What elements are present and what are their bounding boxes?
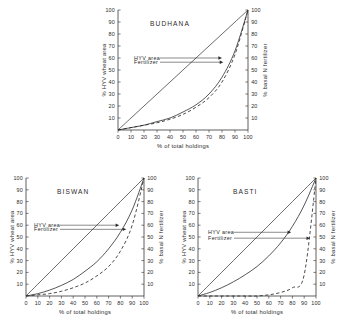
x-axis-title: % of total holdings bbox=[59, 309, 111, 315]
y-tick-label-left: 60 bbox=[189, 222, 195, 228]
y-tick-label-right: 80 bbox=[319, 199, 325, 205]
x-tick-label: 80 bbox=[219, 134, 225, 140]
y-tick-label-left: 10 bbox=[109, 115, 115, 121]
y-tick-label-left: 70 bbox=[189, 210, 195, 216]
x-tick-label: 0 bbox=[116, 134, 119, 140]
y-tick-label-left: 70 bbox=[109, 43, 115, 49]
y-tick-label-left: 80 bbox=[17, 199, 23, 205]
y-tick-label-left: 10 bbox=[189, 281, 195, 287]
y-axis-title-left: % HYV wheat area bbox=[9, 210, 15, 264]
y-tick-label-right: 100 bbox=[319, 175, 328, 181]
y-tick-label-left: 60 bbox=[109, 55, 115, 61]
x-tick-label: 40 bbox=[242, 300, 248, 306]
y-tick-label-right: 40 bbox=[147, 246, 153, 252]
chart-svg: 0102030405060708090100101020203030404050… bbox=[8, 172, 170, 318]
x-tick-label: 80 bbox=[117, 300, 123, 306]
y-tick-label-left: 30 bbox=[17, 258, 23, 264]
y-tick-label-left: 90 bbox=[189, 187, 195, 193]
x-tick-label: 20 bbox=[141, 134, 147, 140]
y-tick-label-left: 100 bbox=[106, 7, 115, 13]
y-tick-label-right: 40 bbox=[251, 79, 257, 85]
x-tick-label: 90 bbox=[301, 300, 307, 306]
x-tick-label: 10 bbox=[207, 300, 213, 306]
x-tick-label: 10 bbox=[35, 300, 41, 306]
y-tick-label-left: 20 bbox=[189, 269, 195, 275]
y-tick-label-right: 100 bbox=[147, 175, 156, 181]
y-tick-label-right: 50 bbox=[251, 67, 257, 73]
x-tick-label: 20 bbox=[46, 300, 52, 306]
y-tick-label-right: 10 bbox=[251, 115, 257, 121]
y-tick-label-left: 60 bbox=[17, 222, 23, 228]
y-tick-label-right: 60 bbox=[147, 222, 153, 228]
y-axis-title-right: % basal N fertilizer bbox=[330, 210, 336, 263]
y-tick-label-right: 40 bbox=[319, 246, 325, 252]
x-tick-label: 70 bbox=[277, 300, 283, 306]
y-tick-label-right: 30 bbox=[147, 258, 153, 264]
x-tick-label: 10 bbox=[128, 134, 134, 140]
chart-svg: 0102030405060708090100101020203030404050… bbox=[100, 4, 274, 152]
y-tick-label-right: 20 bbox=[147, 269, 153, 275]
y-axis-title-left: % HYV wheat area bbox=[181, 210, 187, 264]
y-tick-label-left: 80 bbox=[189, 199, 195, 205]
y-tick-label-right: 10 bbox=[319, 281, 325, 287]
x-tick-label: 100 bbox=[311, 300, 320, 306]
y-tick-label-left: 40 bbox=[17, 246, 23, 252]
y-tick-label-right: 80 bbox=[251, 31, 257, 37]
y-tick-label-left: 30 bbox=[189, 258, 195, 264]
annotation-arrowhead bbox=[123, 228, 127, 231]
y-tick-label-left: 20 bbox=[109, 103, 115, 109]
annotation-arrowhead bbox=[220, 61, 224, 64]
x-tick-label: 70 bbox=[105, 300, 111, 306]
y-tick-label-right: 50 bbox=[319, 234, 325, 240]
y-tick-label-left: 40 bbox=[109, 79, 115, 85]
y-tick-label-left: 10 bbox=[17, 281, 23, 287]
x-tick-label: 0 bbox=[24, 300, 27, 306]
x-tick-label: 50 bbox=[82, 300, 88, 306]
panel-title: BISWAN bbox=[57, 188, 89, 195]
y-axis-title-right: % basal N fertilizer bbox=[262, 43, 268, 96]
chart-panel-basti: 0102030405060708090100101020203030404050… bbox=[180, 172, 342, 318]
y-tick-label-right: 20 bbox=[319, 269, 325, 275]
y-tick-label-left: 70 bbox=[17, 210, 23, 216]
annotation-arrowhead bbox=[218, 56, 222, 59]
y-tick-label-right: 20 bbox=[251, 103, 257, 109]
y-tick-label-left: 100 bbox=[186, 175, 195, 181]
annotation-arrowhead bbox=[116, 224, 120, 227]
y-tick-label-right: 90 bbox=[319, 187, 325, 193]
y-tick-label-left: 20 bbox=[17, 269, 23, 275]
y-tick-label-left: 90 bbox=[109, 19, 115, 25]
x-tick-label: 40 bbox=[167, 134, 173, 140]
lorenz-curve-figure: 0102030405060708090100101020203030404050… bbox=[0, 0, 343, 325]
chart-svg: 0102030405060708090100101020203030404050… bbox=[180, 172, 342, 318]
series-line-of-equality bbox=[26, 178, 144, 296]
y-tick-label-left: 30 bbox=[109, 91, 115, 97]
y-tick-label-right: 70 bbox=[251, 43, 257, 49]
y-tick-label-left: 50 bbox=[17, 234, 23, 240]
y-tick-label-left: 50 bbox=[109, 67, 115, 73]
x-tick-label: 30 bbox=[58, 300, 64, 306]
x-axis-title: % of total holdings bbox=[231, 309, 283, 315]
x-tick-label: 50 bbox=[180, 134, 186, 140]
y-axis-title-left: % HYV wheat area bbox=[101, 43, 107, 97]
y-tick-label-left: 90 bbox=[17, 187, 23, 193]
y-tick-label-left: 40 bbox=[189, 246, 195, 252]
x-axis-title: % of total holdings bbox=[157, 143, 209, 149]
x-tick-label: 80 bbox=[289, 300, 295, 306]
x-tick-label: 100 bbox=[243, 134, 252, 140]
x-tick-label: 60 bbox=[266, 300, 272, 306]
y-tick-label-right: 90 bbox=[147, 187, 153, 193]
x-tick-label: 50 bbox=[254, 300, 260, 306]
x-tick-label: 0 bbox=[196, 300, 199, 306]
y-tick-label-right: 10 bbox=[147, 281, 153, 287]
x-tick-label: 20 bbox=[218, 300, 224, 306]
x-tick-label: 30 bbox=[230, 300, 236, 306]
y-tick-label-right: 90 bbox=[251, 19, 257, 25]
y-axis-title-right: % basal N fertilizer bbox=[158, 210, 164, 263]
annotation-label-fertilizer: Fertilizer bbox=[134, 59, 158, 65]
y-tick-label-right: 100 bbox=[251, 7, 260, 13]
annotation-label-fertilizer: Fertilizer bbox=[208, 235, 232, 241]
y-tick-label-right: 70 bbox=[319, 210, 325, 216]
y-tick-label-left: 50 bbox=[189, 234, 195, 240]
y-tick-label-right: 30 bbox=[319, 258, 325, 264]
y-tick-label-right: 30 bbox=[251, 91, 257, 97]
